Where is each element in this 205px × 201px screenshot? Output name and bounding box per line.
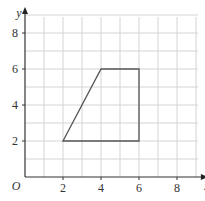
grid-lines — [25, 15, 198, 177]
x-tick-label: 6 — [136, 181, 142, 195]
x-tick-label: 4 — [98, 181, 104, 195]
y-axis-label: y — [15, 6, 22, 20]
y-tick-label: 6 — [12, 62, 18, 76]
y-tick-label: 8 — [12, 26, 18, 40]
origin-label: O — [12, 179, 21, 193]
axis-labels: 24682468Oxy — [12, 6, 205, 195]
y-tick-label: 2 — [12, 134, 18, 148]
x-tick-label: 8 — [174, 181, 180, 195]
coordinate-grid-chart: 24682468Oxy — [0, 0, 205, 201]
y-axis-arrow-icon — [22, 7, 28, 14]
y-tick-label: 4 — [12, 98, 18, 112]
x-tick-label: 2 — [60, 181, 66, 195]
x-axis-label: x — [203, 179, 205, 193]
